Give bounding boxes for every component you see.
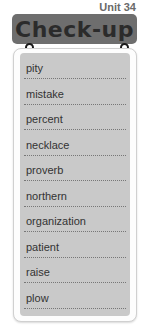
header-banner: Check-up bbox=[12, 14, 137, 44]
word-text: proverb bbox=[26, 164, 63, 176]
word-list: pity mistake percent necklace proverb no… bbox=[20, 53, 130, 316]
page-title: Check-up bbox=[15, 17, 134, 42]
word-text: pity bbox=[26, 62, 43, 74]
word-text: mistake bbox=[26, 88, 64, 100]
list-item: necklace bbox=[24, 130, 126, 156]
word-text: raise bbox=[26, 266, 50, 278]
list-item: proverb bbox=[24, 155, 126, 181]
word-text: percent bbox=[26, 113, 63, 125]
list-item: patient bbox=[24, 232, 126, 258]
word-text: plow bbox=[26, 292, 49, 304]
word-text: northern bbox=[26, 190, 67, 202]
list-item: raise bbox=[24, 257, 126, 283]
list-item: mistake bbox=[24, 79, 126, 105]
list-item: plow bbox=[24, 283, 126, 309]
word-text: necklace bbox=[26, 139, 69, 151]
list-item: northern bbox=[24, 181, 126, 207]
unit-label: Unit 34 bbox=[99, 1, 136, 13]
word-card: pity mistake percent necklace proverb no… bbox=[13, 48, 137, 322]
list-item: percent bbox=[24, 104, 126, 130]
word-text: organization bbox=[26, 215, 86, 227]
list-item: pity bbox=[24, 53, 126, 79]
list-item: organization bbox=[24, 206, 126, 232]
word-text: patient bbox=[26, 241, 59, 253]
